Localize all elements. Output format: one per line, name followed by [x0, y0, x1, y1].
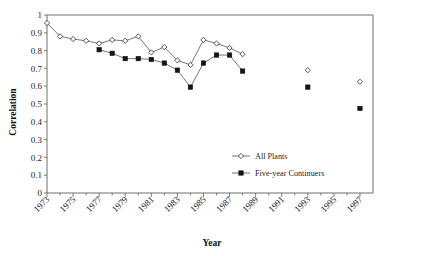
- data-point-marker: [123, 38, 128, 43]
- data-point-marker: [97, 48, 101, 52]
- x-tick-label: 1987: [214, 194, 234, 214]
- data-point-marker: [123, 56, 127, 60]
- x-tick-label: 1981: [136, 194, 156, 214]
- data-point-marker: [227, 45, 232, 50]
- data-point-marker: [214, 53, 218, 57]
- y-tick-label: 0.1: [31, 170, 42, 180]
- data-point-marker: [136, 56, 140, 60]
- legend-marker-open-diamond-icon: [238, 153, 243, 158]
- data-point-marker: [188, 62, 193, 67]
- data-point-marker: [240, 69, 244, 73]
- legend-label: Five-year Continuers: [255, 169, 324, 178]
- data-point-marker: [306, 85, 310, 89]
- series-five-year-continuers: [97, 48, 362, 111]
- x-tick-label: 1985: [188, 194, 208, 214]
- correlation-line-chart: 00.10.20.30.40.50.60.70.80.91 1973197519…: [0, 0, 421, 256]
- legend-item-all-plants: All Plants: [232, 152, 288, 161]
- y-tick-label: 0.8: [31, 46, 43, 56]
- data-series-group: [44, 20, 362, 110]
- data-point-marker: [188, 85, 192, 89]
- y-tick-label: 0.4: [31, 117, 43, 127]
- data-point-marker: [358, 106, 362, 110]
- series-line: [47, 23, 243, 65]
- y-tick-label: 0.6: [31, 81, 43, 91]
- x-tick-label: 1977: [84, 194, 104, 214]
- data-point-marker: [214, 41, 219, 46]
- x-tick-label: 1973: [32, 194, 52, 214]
- x-tick-label: 1991: [266, 194, 286, 214]
- legend-item-five-year-continuers: Five-year Continuers: [232, 169, 324, 178]
- x-tick-label: 1975: [58, 194, 78, 214]
- data-point-marker: [357, 79, 362, 84]
- x-tick-label: 1997: [345, 194, 365, 214]
- series-all-plants: [44, 20, 362, 84]
- x-tick-label: 1989: [240, 194, 260, 214]
- x-tick-label: 1979: [110, 194, 130, 214]
- y-tick-label: 0.7: [31, 64, 43, 74]
- data-point-marker: [305, 68, 310, 73]
- x-tick-label: 1995: [318, 194, 338, 214]
- chart-container: 00.10.20.30.40.50.60.70.80.91 1973197519…: [0, 0, 421, 256]
- x-axis-title: Year: [203, 238, 223, 248]
- data-point-marker: [240, 52, 245, 57]
- data-point-marker: [97, 41, 102, 46]
- data-point-marker: [110, 51, 114, 55]
- data-point-marker: [149, 57, 153, 61]
- data-point-marker: [84, 38, 89, 43]
- legend-label: All Plants: [255, 152, 288, 161]
- y-tick-label: 0.3: [31, 135, 43, 145]
- data-point-marker: [110, 37, 115, 42]
- y-axis: 00.10.20.30.40.50.60.70.80.91: [31, 10, 47, 198]
- series-line: [99, 50, 242, 87]
- legend-marker-filled-square-icon: [239, 171, 243, 175]
- y-tick-label: 0.5: [31, 99, 43, 109]
- data-point-marker: [201, 37, 206, 42]
- chart-legend: All PlantsFive-year Continuers: [232, 152, 324, 178]
- data-point-marker: [70, 36, 75, 41]
- y-axis-title: Correlation: [8, 88, 18, 136]
- x-tick-label: 1993: [292, 194, 312, 214]
- y-tick-label: 0.9: [31, 28, 43, 38]
- x-axis: 1973197519771979198119831985198719891991…: [32, 193, 365, 214]
- data-point-marker: [227, 53, 231, 57]
- data-point-marker: [175, 68, 179, 72]
- data-point-marker: [201, 61, 205, 65]
- x-tick-label: 1983: [162, 194, 182, 214]
- y-tick-label: 1: [38, 10, 43, 20]
- y-tick-label: 0.2: [31, 153, 42, 163]
- data-point-marker: [162, 61, 166, 65]
